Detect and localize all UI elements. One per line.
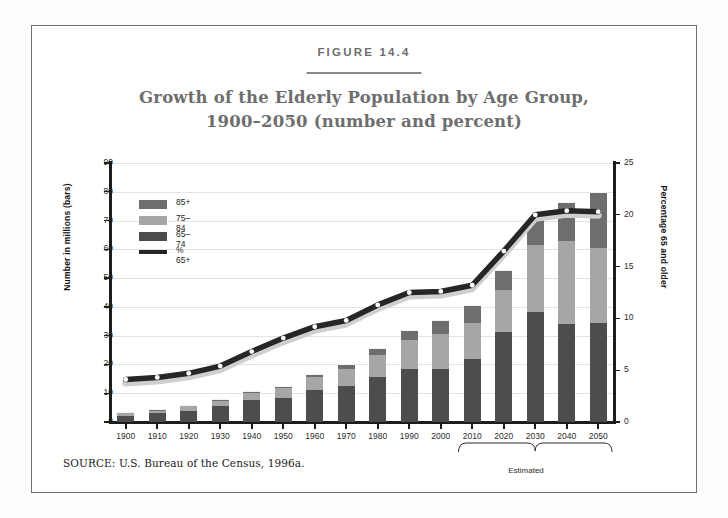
y-axis-left-tick-label: 60 (73, 243, 113, 253)
stacked-bar (180, 406, 197, 422)
y-axis-left-tick-label: 0 (73, 416, 113, 426)
bar-segment-65-74 (338, 385, 355, 422)
x-axis-tickmark (314, 422, 316, 429)
legend-color-swatch (139, 232, 167, 241)
y-axis-left-title: Number in millions (bars) (62, 157, 72, 317)
x-axis-tickmark (597, 422, 599, 429)
x-axis-tickmark (188, 422, 190, 429)
bar-segment-75-84 (464, 322, 481, 360)
source-note: SOURCE: U.S. Bureau of the Census, 1996a… (63, 457, 305, 469)
bar-segment-85-plus (590, 192, 607, 249)
bar-segment-65-74 (149, 412, 166, 422)
bar-segment-65-74 (243, 399, 260, 422)
x-axis-tickmark (125, 422, 127, 429)
stacked-bar (306, 375, 323, 422)
x-axis-tickmark (440, 422, 442, 429)
y-axis-left-tick-label: 20 (73, 358, 113, 368)
y-axis-right-tick-label: 0 (624, 416, 654, 426)
bar-segment-85-plus (432, 320, 449, 333)
x-axis-tickmark (566, 422, 568, 429)
bar-segment-85-plus (212, 399, 229, 401)
bar-segment-85-plus (401, 330, 418, 340)
bar-segment-85-plus (117, 412, 134, 413)
stacked-bar (558, 203, 575, 422)
legend-label: % 65+ (176, 245, 190, 265)
bar-segment-65-74 (275, 397, 292, 422)
stacked-bar (369, 349, 386, 422)
legend-color-swatch (139, 216, 167, 225)
y-axis-left-tick-label: 80 (73, 186, 113, 196)
y-axis-left-tick-label: 10 (73, 387, 113, 397)
y-axis-right-tick-label: 15 (624, 261, 654, 271)
bar-segment-75-84 (369, 354, 386, 377)
stacked-bar (212, 400, 229, 422)
y-axis-right-tick-label: 10 (624, 312, 654, 322)
x-axis-tickmark (471, 422, 473, 429)
bar-segment-85-plus (180, 405, 197, 407)
y-axis-right-tick-label: 25 (624, 157, 654, 167)
x-axis-tickmark (503, 422, 505, 429)
legend-color-swatch (139, 200, 167, 209)
stacked-bar (243, 392, 260, 422)
bar-segment-65-74 (558, 323, 575, 422)
bar-segment-85-plus (527, 219, 544, 244)
bar-segment-85-plus (495, 270, 512, 290)
bar-segment-75-84 (338, 368, 355, 387)
y-axis-left-tick-label: 90 (73, 157, 113, 167)
bar-segment-85-plus (243, 391, 260, 393)
legend-line-swatch (139, 250, 167, 254)
y-axis-right-tick-label: 5 (624, 364, 654, 374)
stacked-bar (432, 321, 449, 422)
bar-segment-85-plus (558, 202, 575, 241)
bar-segment-85-plus (464, 305, 481, 322)
x-axis-tick-label: 2050 (578, 431, 618, 441)
bar-segment-65-74 (432, 368, 449, 422)
stacked-bar (117, 413, 134, 422)
stacked-bar (401, 331, 418, 422)
bar-segment-75-84 (495, 289, 512, 332)
bar-segment-65-74 (401, 368, 418, 422)
stacked-bar (275, 387, 292, 422)
bar-segment-75-84 (590, 247, 607, 323)
bar-segment-85-plus (369, 348, 386, 355)
bar-segment-75-84 (558, 240, 575, 324)
legend-label: 85+ (176, 197, 190, 207)
bar-segment-75-84 (401, 339, 418, 369)
bar-segment-75-84 (275, 387, 292, 397)
bar-segment-75-84 (527, 244, 544, 312)
y-axis-left-tick-label: 40 (73, 301, 113, 311)
bar-segment-65-74 (306, 389, 323, 422)
bar-segment-85-plus (338, 364, 355, 369)
x-axis-tickmark (534, 422, 536, 429)
bar-segment-75-84 (432, 333, 449, 369)
x-axis-tickmark (345, 422, 347, 429)
estimated-bracket-path (459, 443, 613, 452)
stacked-bar (464, 306, 481, 422)
bar-segment-65-74 (212, 405, 229, 422)
x-axis-tickmark (408, 422, 410, 429)
x-axis-tickmark (156, 422, 158, 429)
stacked-bar (527, 220, 544, 422)
estimated-label: Estimated (446, 466, 606, 475)
figure-page: FIGURE 14.4 Growth of the Elderly Popula… (0, 0, 728, 518)
x-axis-tickmark (219, 422, 221, 429)
y-axis-left-tick-label: 50 (73, 272, 113, 282)
bar-segment-75-84 (243, 392, 260, 400)
chart-area: 0102030405060708090 0510152025 Number in… (0, 0, 728, 518)
y-axis-left-tick-label: 70 (73, 215, 113, 225)
y-axis-left-tick-label: 30 (73, 330, 113, 340)
bar-segment-65-74 (117, 415, 134, 422)
bar-segment-65-74 (464, 358, 481, 422)
x-axis-tickmark (377, 422, 379, 429)
x-axis-tickmark (282, 422, 284, 429)
stacked-bar (495, 271, 512, 422)
stacked-bar (149, 410, 166, 422)
bar-segment-65-74 (590, 322, 607, 422)
bar-segment-85-plus (149, 409, 166, 411)
bar-segment-65-74 (495, 331, 512, 422)
bar-segment-75-84 (306, 376, 323, 390)
stacked-bar (338, 365, 355, 422)
bar-segment-85-plus (275, 386, 292, 389)
stacked-bar (590, 193, 607, 422)
bar-segment-65-74 (527, 311, 544, 422)
